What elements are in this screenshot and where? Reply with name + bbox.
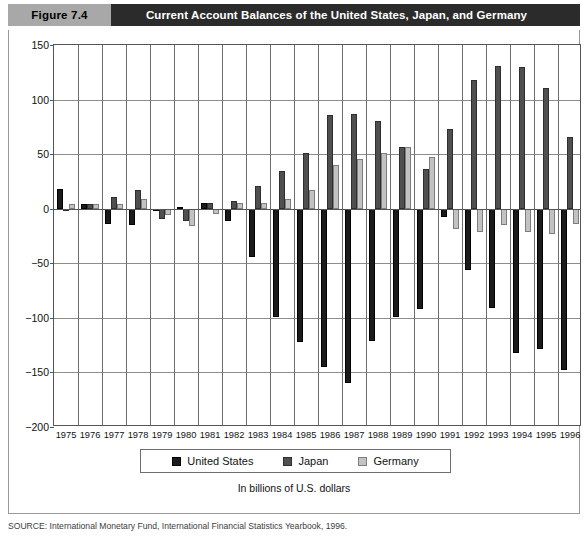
x-axis-tick-label: 1982 (224, 430, 245, 440)
x-axis-tick-label: 1990 (416, 430, 437, 440)
x-axis-tick-label: 1993 (488, 430, 509, 440)
x-gridline (486, 45, 487, 425)
bar-us-1985 (297, 209, 303, 342)
bar-us-1984 (273, 209, 279, 317)
x-gridline (102, 45, 103, 425)
legend-swatch-icon (358, 457, 367, 466)
y-axis-tick-mark (50, 154, 54, 155)
zero-baseline (54, 209, 580, 210)
x-gridline (510, 45, 511, 425)
x-axis-tick-label: 1992 (464, 430, 485, 440)
bar-de-1987 (357, 159, 363, 209)
bar-de-1992 (477, 209, 483, 232)
y-axis-tick-label: −200 (25, 421, 49, 433)
x-axis-tick-label: 1976 (80, 430, 101, 440)
legend-swatch-icon (283, 457, 292, 466)
bar-de-1988 (381, 153, 387, 209)
x-gridline (222, 45, 223, 425)
x-axis-tick-label: 1991 (440, 430, 461, 440)
x-axis-tick-label: 1996 (560, 430, 581, 440)
bar-us-1993 (489, 209, 495, 308)
y-axis-tick-mark (50, 263, 54, 264)
x-gridline (198, 45, 199, 425)
x-gridline (342, 45, 343, 425)
plot-area: 150100500−50−100−150−2001975197619771978… (53, 44, 581, 426)
bar-de-1993 (501, 209, 507, 225)
y-axis-tick-mark (50, 318, 54, 319)
chart-subtitle: In billions of U.S. dollars (9, 482, 579, 494)
y-axis-tick-label: 0 (43, 203, 49, 215)
legend-item-us[interactable]: United States (172, 455, 253, 467)
x-axis-tick-label: 1981 (200, 430, 221, 440)
bar-jp-1993 (495, 66, 501, 209)
legend-swatch-icon (172, 457, 181, 466)
x-axis-tick-label: 1988 (368, 430, 389, 440)
bar-us-1988 (369, 209, 375, 341)
figure-header: Figure 7.4 Current Account Balances of t… (8, 4, 580, 26)
chart-panel: 150100500−50−100−150−2001975197619771978… (8, 30, 580, 514)
x-gridline (78, 45, 79, 425)
x-gridline (438, 45, 439, 425)
bar-de-1996 (573, 209, 579, 224)
source-note: SOURCE: International Monetary Fund, Int… (8, 521, 580, 531)
x-axis-tick-label: 1978 (128, 430, 149, 440)
x-axis-tick-label: 1975 (56, 430, 77, 440)
bar-us-1989 (393, 209, 399, 317)
y-axis-tick-mark (50, 45, 54, 46)
y-axis-tick-label: 150 (31, 39, 49, 51)
x-gridline (462, 45, 463, 425)
y-axis-tick-label: −100 (25, 312, 49, 324)
chart-legend: United StatesJapanGermany (140, 449, 451, 473)
x-gridline (150, 45, 151, 425)
bar-us-1975 (57, 189, 63, 209)
bar-jp-1995 (543, 88, 549, 209)
bar-de-1994 (525, 209, 531, 232)
legend-item-de[interactable]: Germany (358, 455, 418, 467)
bar-de-1985 (309, 190, 315, 209)
bar-de-1980 (189, 209, 195, 226)
x-axis-tick-label: 1987 (344, 430, 365, 440)
bar-us-1994 (513, 209, 519, 353)
figure-title: Current Account Balances of the United S… (111, 4, 580, 26)
legend-label: United States (187, 455, 253, 467)
y-axis-tick-label: −150 (25, 366, 49, 378)
bar-de-1995 (549, 209, 555, 234)
y-gridline (54, 318, 580, 319)
y-axis-tick-label: 100 (31, 94, 49, 106)
x-gridline (294, 45, 295, 425)
x-gridline (246, 45, 247, 425)
y-axis-tick-label: 50 (37, 148, 49, 160)
bar-us-1992 (465, 209, 471, 270)
y-gridline (54, 263, 580, 264)
x-axis-tick-label: 1984 (272, 430, 293, 440)
y-axis-tick-mark (50, 100, 54, 101)
bar-us-1983 (249, 209, 255, 257)
y-gridline (54, 100, 580, 101)
bar-jp-1992 (471, 80, 477, 209)
x-gridline (414, 45, 415, 425)
bar-de-1991 (453, 209, 459, 230)
bar-us-1990 (417, 209, 423, 309)
x-axis-tick-label: 1977 (104, 430, 125, 440)
figure-number-tag: Figure 7.4 (8, 4, 111, 26)
bar-us-1987 (345, 209, 351, 384)
x-axis-tick-label: 1994 (512, 430, 533, 440)
x-gridline (270, 45, 271, 425)
x-gridline (318, 45, 319, 425)
plot-area-wrapper: 150100500−50−100−150−2001975197619771978… (53, 44, 581, 426)
x-axis-tick-label: 1989 (392, 430, 413, 440)
x-axis-tick-label: 1983 (248, 430, 269, 440)
legend-item-jp[interactable]: Japan (283, 455, 328, 467)
legend-label: Germany (373, 455, 418, 467)
bar-us-1986 (321, 209, 327, 367)
bar-us-1995 (537, 209, 543, 350)
x-gridline (534, 45, 535, 425)
bar-jp-1991 (447, 129, 453, 209)
bar-us-1978 (129, 209, 135, 225)
x-axis-tick-label: 1979 (152, 430, 173, 440)
y-axis-tick-mark (50, 372, 54, 373)
bar-de-1989 (405, 147, 411, 209)
x-axis-tick-label: 1995 (536, 430, 557, 440)
x-gridline (390, 45, 391, 425)
x-gridline (174, 45, 175, 425)
